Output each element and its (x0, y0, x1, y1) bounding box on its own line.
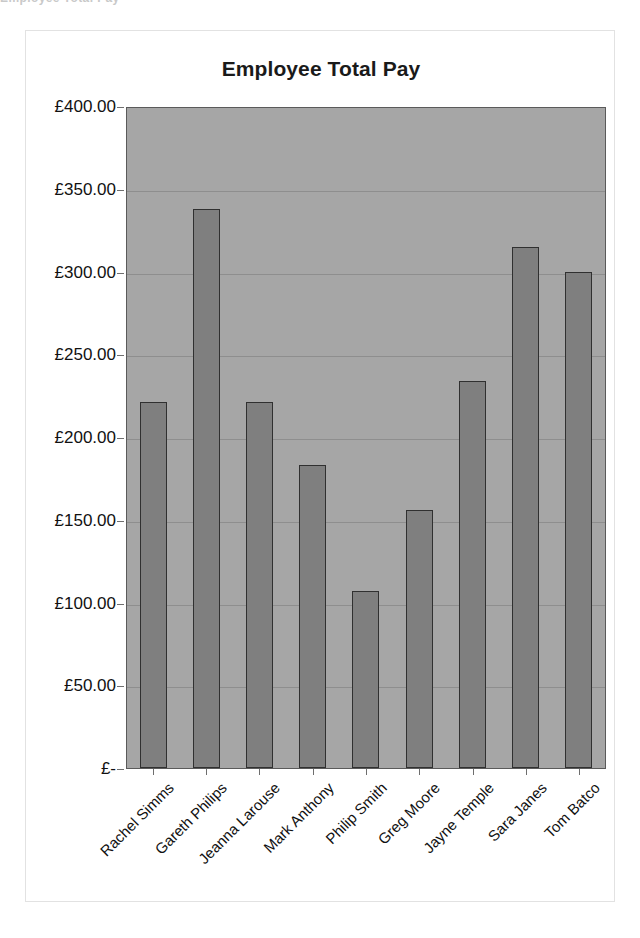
y-axis-tick-label: £250.00 (0, 345, 116, 365)
bar-slot (393, 108, 446, 768)
bar-sara-janes[interactable] (512, 247, 539, 768)
y-axis-tick-label: £- (0, 759, 116, 779)
bar-slot (180, 108, 233, 768)
y-axis-tick-label: £150.00 (0, 511, 116, 531)
bar-jayne-temple[interactable] (459, 381, 486, 768)
y-axis-tick-mark (117, 604, 124, 605)
y-axis-tick-mark (117, 355, 124, 356)
y-axis-tick-label: £200.00 (0, 428, 116, 448)
bar-series (127, 108, 605, 768)
top-cropped-text: Employee Total Pay (0, 0, 640, 12)
x-axis-label-tom-batco: Tom Batco (541, 779, 603, 841)
bar-slot (233, 108, 286, 768)
bar-slot (552, 108, 605, 768)
bar-gareth-philips[interactable] (193, 209, 220, 768)
chart-container: Employee Total Pay Rachel SimmsGareth Ph… (25, 30, 615, 902)
y-axis-tick-mark (117, 521, 124, 522)
y-axis-tick-mark (117, 438, 124, 439)
bar-slot (499, 108, 552, 768)
chart-title: Employee Total Pay (26, 57, 616, 81)
bar-slot (127, 108, 180, 768)
top-cropped-text-label: Employee Total Pay (0, 0, 640, 3)
y-axis-tick-mark (117, 107, 124, 108)
bar-slot (286, 108, 339, 768)
bar-tom-batco[interactable] (565, 272, 592, 769)
bar-jeanna-larouse[interactable] (246, 402, 273, 768)
y-axis-tick-label: £350.00 (0, 180, 116, 200)
y-axis-tick-label: £100.00 (0, 594, 116, 614)
y-axis-tick-mark (117, 273, 124, 274)
plot-area (126, 107, 606, 769)
y-axis-tick-label: £400.00 (0, 97, 116, 117)
y-axis-tick-mark (117, 190, 124, 191)
bar-rachel-simms[interactable] (140, 402, 167, 768)
y-axis-tick-mark (117, 686, 124, 687)
bar-philip-smith[interactable] (352, 591, 379, 768)
bar-mark-anthony[interactable] (299, 465, 326, 768)
bar-greg-moore[interactable] (406, 510, 433, 768)
x-axis-labels: Rachel SimmsGareth PhilipsJeanna Larouse… (126, 775, 606, 895)
bar-slot (339, 108, 392, 768)
y-axis-tick-mark (117, 769, 124, 770)
y-axis-tick-label: £50.00 (0, 676, 116, 696)
y-axis-tick-label: £300.00 (0, 263, 116, 283)
bar-slot (446, 108, 499, 768)
